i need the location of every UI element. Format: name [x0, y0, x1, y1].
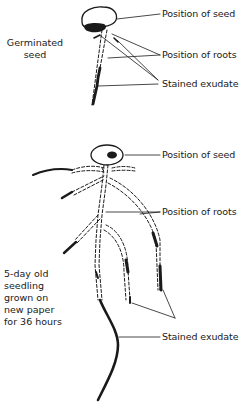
bottom-caption-line: grown on: [4, 292, 62, 304]
bottom-caption-line: for 36 hours: [4, 316, 62, 328]
top-caption-line: seed: [6, 49, 64, 61]
bottom-label-exudate: Stained exudate: [162, 331, 238, 342]
bottom-caption-line: new paper: [4, 304, 62, 316]
bottom-caption-line: seedling: [4, 280, 62, 292]
bottom-label-roots: Position of roots: [162, 206, 236, 217]
top-label-roots: Position of roots: [162, 49, 236, 60]
bottom-caption: 5-day old seedling grown on new paper fo…: [4, 268, 62, 328]
bottom-caption-line: 5-day old: [4, 268, 62, 280]
bottom-label-seed: Position of seed: [162, 149, 235, 160]
top-label-seed: Position of seed: [162, 8, 235, 19]
top-caption-line: Germinated: [6, 37, 64, 49]
top-label-exudate: Stained exudate: [162, 78, 238, 89]
top-caption: Germinated seed: [6, 37, 64, 61]
germinated-seed-figure: [82, 7, 160, 105]
